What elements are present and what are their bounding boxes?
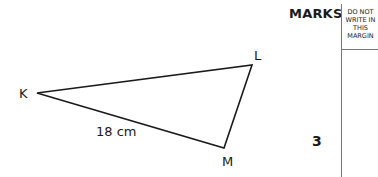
triangle-klm <box>37 65 252 148</box>
vertex-label-k: K <box>19 86 28 101</box>
side-length-label: 18 cm <box>96 124 137 139</box>
vertex-label-m: M <box>222 154 233 169</box>
vertex-label-l: L <box>254 48 262 63</box>
triangle-diagram: K L M 18 cm <box>0 0 378 177</box>
marks-value: 3 <box>312 133 322 149</box>
